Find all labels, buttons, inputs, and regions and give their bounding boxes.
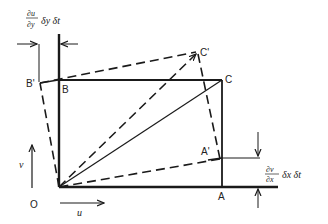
u-label: u (77, 207, 82, 218)
label-a: A (218, 191, 225, 202)
right-fraction-denominator: ∂x (266, 175, 274, 184)
b-prime-corner (40, 80, 58, 83)
right-fraction-numerator: ∂v (266, 165, 274, 174)
top-fraction-numerator: ∂u (27, 9, 35, 18)
label-a-prime: A' (201, 146, 210, 157)
deformed-element (40, 52, 220, 187)
v-label: v (19, 159, 24, 170)
label-c-prime: C' (200, 47, 209, 58)
right-fraction-tail: δx δt (282, 169, 301, 180)
label-o: O (30, 199, 38, 210)
label-b-prime: B' (26, 78, 35, 89)
top-dimension (17, 44, 78, 82)
top-fraction-denominator: ∂y (27, 20, 35, 29)
diagonal-oc (59, 80, 222, 187)
top-fraction-tail: δy δt (41, 15, 60, 26)
edge-c-prime-a-prime (198, 54, 220, 159)
edge-ob-prime (40, 83, 59, 187)
fluid-element-deformation-diagram: ∂u ∂y δy δt ∂v ∂x δx δt v u O A B C B' C… (0, 0, 328, 224)
label-c: C (225, 74, 232, 85)
label-b: B (62, 84, 69, 95)
right-dimension (222, 132, 260, 208)
edge-b-prime-c-prime (40, 52, 196, 83)
